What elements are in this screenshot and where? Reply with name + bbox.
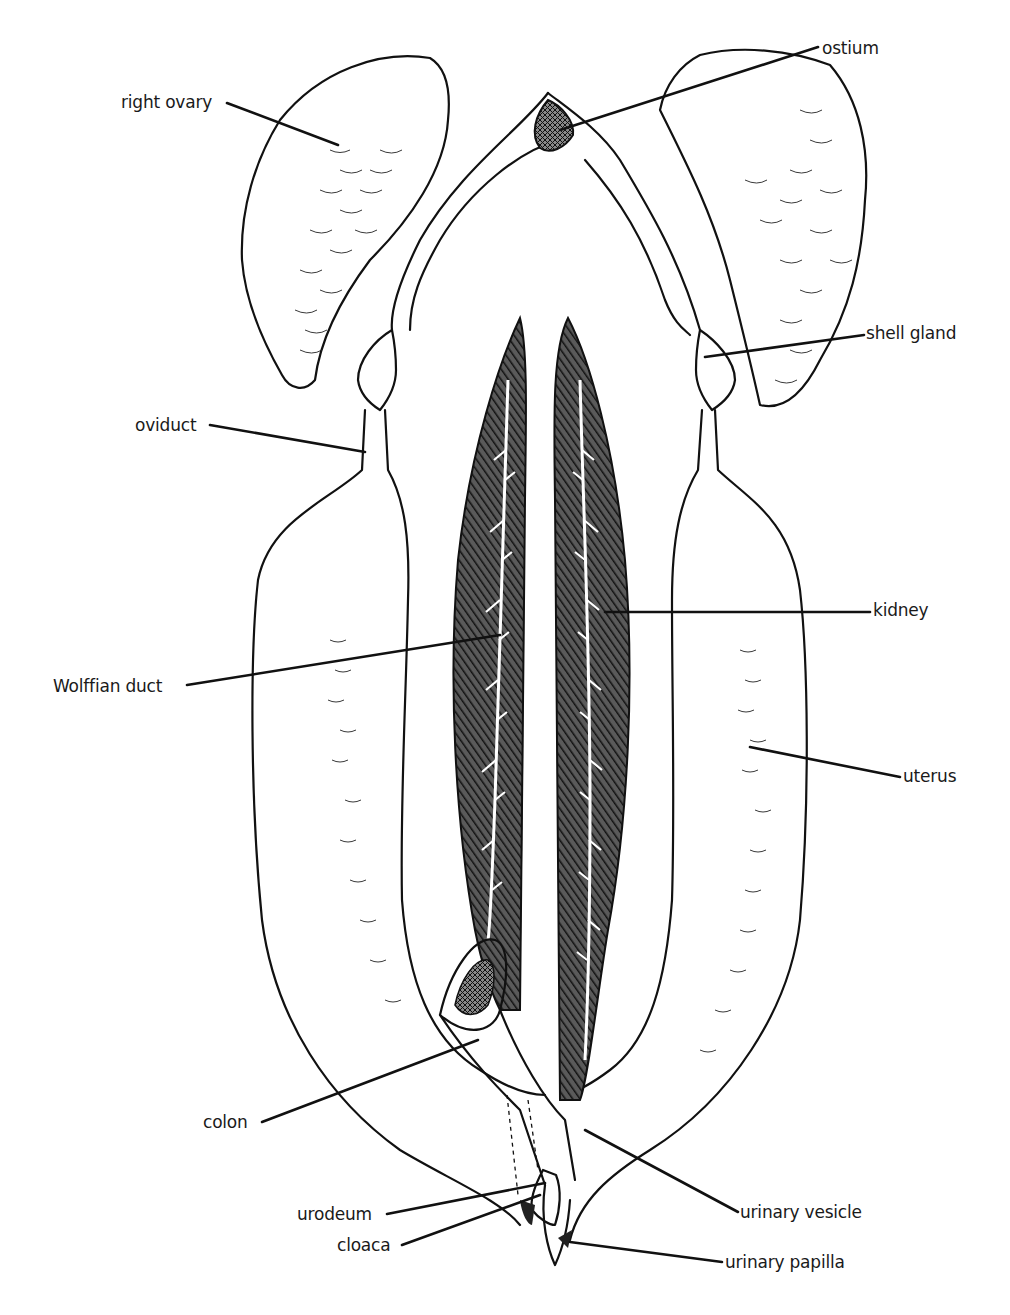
label-shell-gland: shell gland <box>866 323 956 343</box>
label-urodeum: urodeum <box>297 1204 372 1224</box>
uterus-shapes <box>252 410 806 1240</box>
label-right-ovary: right ovary <box>121 92 212 112</box>
label-uterus: uterus <box>903 766 956 786</box>
oviduct-arch <box>392 93 700 335</box>
shell-glands <box>358 330 735 410</box>
label-kidney: kidney <box>873 600 928 620</box>
label-cloaca: cloaca <box>337 1235 390 1255</box>
right-ovary-shape <box>242 56 449 388</box>
urogenital-diagram <box>0 0 1010 1315</box>
left-ovary-shape <box>660 50 866 406</box>
label-ostium: ostium <box>822 38 879 58</box>
label-urinary-vesicle: urinary vesicle <box>740 1202 862 1222</box>
label-urinary-papilla: urinary papilla <box>725 1252 845 1272</box>
label-oviduct: oviduct <box>135 415 196 435</box>
label-wolffian-duct: Wolffian duct <box>53 676 162 696</box>
label-colon: colon <box>203 1112 248 1132</box>
leader-lines <box>187 47 900 1262</box>
